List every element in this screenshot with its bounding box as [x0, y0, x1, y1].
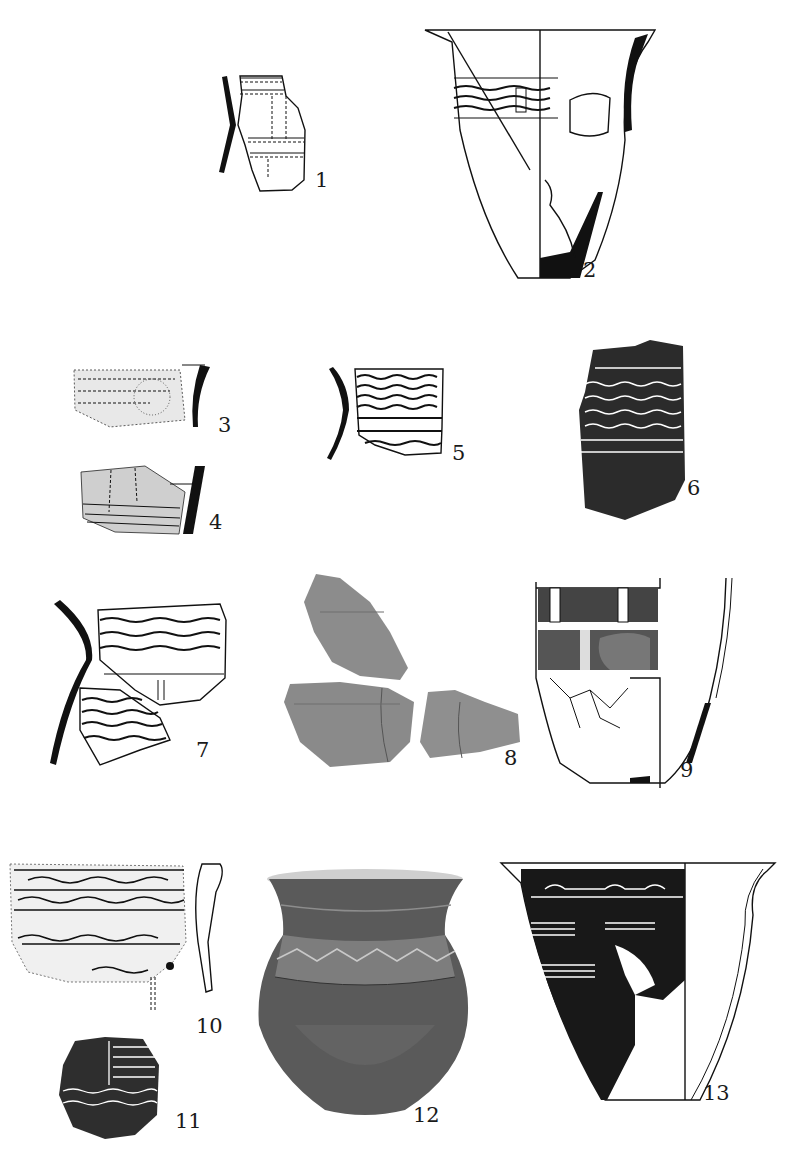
figure-6: 6: [575, 340, 715, 530]
figure-11: 11: [55, 1035, 205, 1145]
figure-label: 11: [175, 1111, 202, 1132]
vessel-drawing-2: [420, 20, 670, 290]
figure-label: 7: [196, 740, 209, 761]
figure-3: 3: [70, 365, 240, 440]
figure-2: 2: [420, 20, 670, 290]
figure-label: 3: [218, 415, 231, 436]
figure-1: 1: [200, 60, 350, 210]
figure-label: 13: [703, 1083, 730, 1104]
figure-label: 6: [687, 478, 700, 499]
figure-4: 4: [75, 462, 245, 537]
figure-9: 9: [530, 578, 750, 788]
figure-label: 9: [680, 760, 693, 781]
figure-7: 7: [40, 600, 230, 770]
figure-label: 8: [504, 748, 517, 769]
figure-label: 4: [209, 512, 222, 533]
figure-8: 8: [280, 572, 530, 772]
figure-label: 5: [452, 443, 465, 464]
jar-photo-12: [255, 865, 485, 1135]
figure-10: 10: [8, 862, 233, 1042]
sherd-photo-8: [280, 572, 530, 772]
figure-12: 12: [255, 865, 485, 1135]
sherd-rubbing-6: [575, 340, 715, 530]
bowl-rubbing-13: [495, 855, 785, 1110]
sherd-rubbing-3: [70, 365, 240, 440]
figure-label: 1: [315, 170, 328, 191]
figure-label: 10: [196, 1016, 223, 1037]
figure-5: 5: [325, 365, 475, 465]
figure-label: 2: [583, 260, 596, 281]
vessel-drawing-9: [530, 578, 750, 788]
figure-label: 12: [413, 1105, 440, 1126]
figure-13: 13: [495, 855, 785, 1110]
